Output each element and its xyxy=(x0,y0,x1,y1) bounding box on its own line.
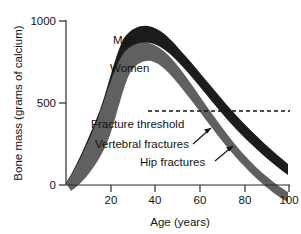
x-axis-title: Age (years) xyxy=(150,216,210,228)
y-tick-label-0: 0 xyxy=(50,179,56,191)
x-tick-label-20: 20 xyxy=(105,194,118,206)
annotation-vertebral-fractures: Vertebral fractures xyxy=(95,138,189,150)
x-tick-label-100: 100 xyxy=(279,194,298,206)
y-tick-label-1000: 1000 xyxy=(30,15,56,27)
x-tick-label-60: 60 xyxy=(194,194,207,206)
x-tick-label-80: 80 xyxy=(239,194,252,206)
annotation-hip-fractures: Hip fractures xyxy=(140,156,205,168)
series-label-men: Men xyxy=(113,34,135,46)
series-label-women: Women xyxy=(110,62,149,74)
chart-canvas: 1000 500 0 20 40 60 80 100 Age (years) B… xyxy=(0,0,301,234)
y-tick-label-500: 500 xyxy=(37,97,56,109)
bone-mass-chart: 1000 500 0 20 40 60 80 100 Age (years) B… xyxy=(0,0,301,234)
y-axis-title: Bone mass (grams of calcium) xyxy=(12,25,24,180)
annotation-fracture-threshold: Fracture threshold xyxy=(91,118,184,130)
x-tick-label-40: 40 xyxy=(149,194,162,206)
